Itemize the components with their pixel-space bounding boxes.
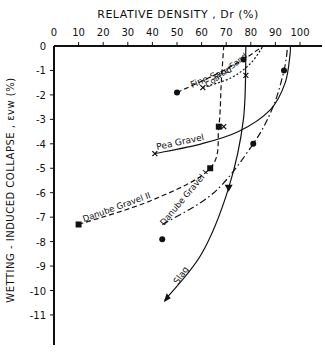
axes: 01020304050607080901000-1-2-3-4-5-6-7-8-… — [30, 27, 322, 345]
marker-circle — [281, 67, 287, 73]
x-tick-label: 0 — [51, 27, 57, 38]
marker-circle — [250, 141, 256, 147]
y-axis-title: WETTING - INDUCED COLLAPSE , εvw (%) — [5, 77, 16, 302]
y-tick-label: 0 — [40, 41, 46, 52]
y-tick-label: -9 — [36, 261, 46, 272]
y-tick-label: -5 — [36, 163, 46, 174]
x-tick-label: 90 — [269, 27, 282, 38]
marker-square — [76, 221, 82, 227]
y-tick-label: -11 — [30, 310, 46, 321]
y-tick-label: -7 — [36, 212, 46, 223]
y-tick-label: -2 — [36, 90, 46, 101]
x-tick-label: 10 — [72, 27, 85, 38]
y-tick-label: -8 — [36, 237, 46, 248]
marker-square — [207, 165, 213, 171]
x-tick-label: 40 — [146, 27, 159, 38]
marker-triangle — [225, 185, 233, 192]
y-tick-label: -10 — [30, 286, 46, 297]
x-tick-label: 100 — [290, 27, 309, 38]
marker-circle — [174, 89, 180, 95]
label-danube-gravel-1: Danube Gravel I — [158, 168, 210, 227]
x-tick-label: 60 — [195, 27, 208, 38]
marker-circle — [159, 236, 165, 242]
collapse-vs-density-chart: 01020304050607080901000-1-2-3-4-5-6-7-8-… — [0, 0, 325, 355]
label-danube-gravel-2: Danube Gravel II — [81, 190, 152, 224]
label-coarse-sand: Coarse Sand — [204, 51, 249, 89]
y-tick-label: -4 — [36, 139, 46, 150]
y-tick-label: -6 — [36, 188, 46, 199]
marker-x — [221, 124, 226, 129]
y-tick-label: -1 — [36, 65, 46, 76]
x-tick-label: 20 — [97, 27, 110, 38]
series-layer — [76, 46, 291, 302]
x-tick-label: 80 — [244, 27, 257, 38]
x-tick-label: 30 — [121, 27, 134, 38]
x-tick-label: 50 — [171, 27, 184, 38]
y-tick-label: -3 — [36, 114, 46, 125]
marker-square — [216, 124, 222, 130]
x-tick-label: 70 — [220, 27, 233, 38]
label-slag: Slag — [171, 264, 190, 286]
x-axis-title: RELATIVE DENSITY , Dr (%) — [97, 8, 258, 21]
